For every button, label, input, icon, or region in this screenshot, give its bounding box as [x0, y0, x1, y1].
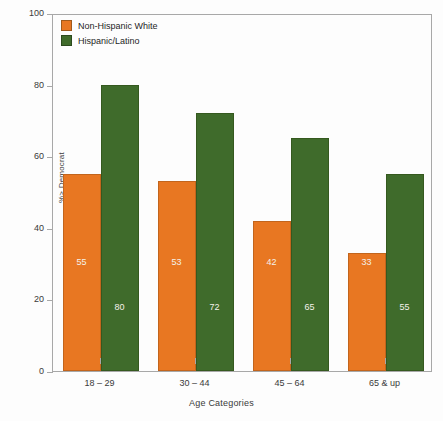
x-tick-label: 45 – 64 — [274, 378, 304, 388]
x-tick-label: 18 – 29 — [84, 378, 114, 388]
bar[interactable]: 80 — [101, 85, 139, 371]
bar[interactable]: 33 — [348, 253, 386, 371]
plot-area: %> Democrat 020406080100 Non-Hispanic Wh… — [52, 14, 432, 372]
y-tick-mark — [47, 372, 53, 373]
x-tick-label: 65 & up — [369, 378, 400, 388]
bar-group: 5580 — [53, 15, 148, 371]
bar[interactable]: 65 — [291, 138, 329, 371]
bar[interactable]: 55 — [386, 174, 424, 371]
bar-value-label: 53 — [159, 257, 195, 267]
bar-value-label: 33 — [349, 257, 385, 267]
x-axis-title: Age Categories — [0, 398, 443, 408]
x-tick-mark — [385, 358, 386, 364]
x-tick-mark — [100, 358, 101, 364]
bar-value-label: 55 — [64, 257, 100, 267]
bar-value-label: 72 — [197, 302, 233, 312]
bar-group: 4265 — [243, 15, 338, 371]
x-tick-mark — [290, 358, 291, 364]
bar-group: 5372 — [148, 15, 243, 371]
y-tick-label: 0 — [39, 366, 44, 376]
bar[interactable]: 42 — [253, 221, 291, 371]
bar[interactable]: 53 — [158, 181, 196, 371]
x-tick-label: 30 – 44 — [179, 378, 209, 388]
x-tick-mark — [195, 358, 196, 364]
bar[interactable]: 72 — [196, 113, 234, 371]
y-tick-label: 80 — [34, 80, 44, 90]
bars-layer: 5580537242653355 — [53, 15, 431, 371]
bar-chart: %> Democrat 020406080100 Non-Hispanic Wh… — [0, 0, 443, 421]
bar-value-label: 55 — [387, 302, 423, 312]
bar-value-label: 42 — [254, 257, 290, 267]
bar-group: 3355 — [338, 15, 433, 371]
bar-value-label: 80 — [102, 302, 138, 312]
y-tick-label: 100 — [29, 8, 44, 18]
bar[interactable]: 55 — [63, 174, 101, 371]
y-tick-label: 60 — [34, 151, 44, 161]
y-tick-label: 20 — [34, 294, 44, 304]
y-tick-label: 40 — [34, 223, 44, 233]
bar-value-label: 65 — [292, 302, 328, 312]
